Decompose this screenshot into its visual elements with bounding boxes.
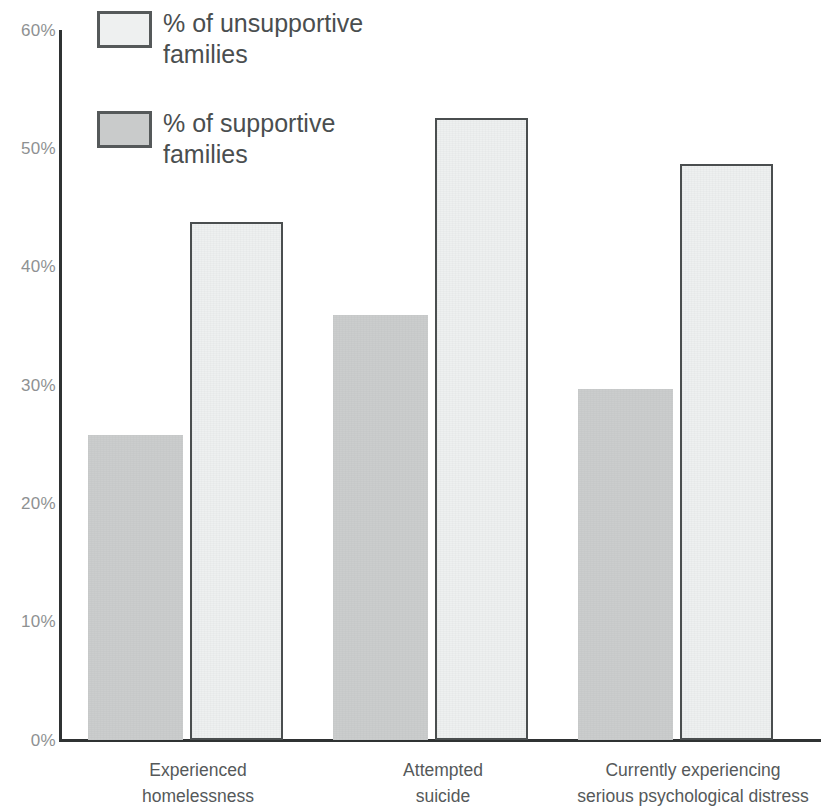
y-tick-label: 40% <box>4 258 56 275</box>
bar-unsupportive-0 <box>190 222 283 740</box>
y-tick-label: 60% <box>4 22 56 39</box>
grouped-bar-chart: 60% 50% 40% 30% 20% 10% 0% Experienced h… <box>0 0 827 811</box>
x-category-label-2: Currently experiencing serious psycholog… <box>558 757 827 809</box>
y-tick-label: 50% <box>4 140 56 157</box>
bar-supportive-1 <box>333 315 428 740</box>
y-tick-label: 10% <box>4 613 56 630</box>
x-category-label-0: Experienced homelessness <box>83 757 313 809</box>
bar-supportive-2 <box>578 389 673 740</box>
x-axis-category-labels: Experienced homelessness Attempted suici… <box>61 757 827 811</box>
legend-label-supportive: % of supportive families <box>163 108 335 170</box>
legend-label-unsupportive: % of unsupportive families <box>163 8 363 70</box>
chart-legend: % of unsupportive families % of supporti… <box>97 8 363 208</box>
legend-swatch-icon-unsupportive <box>97 11 152 48</box>
y-tick-label: 0% <box>4 732 56 749</box>
legend-item-supportive: % of supportive families <box>97 108 363 170</box>
bar-unsupportive-1 <box>435 118 528 740</box>
legend-item-unsupportive: % of unsupportive families <box>97 8 363 70</box>
y-axis-tick-labels: 60% 50% 40% 30% 20% 10% 0% <box>0 0 56 811</box>
bar-supportive-0 <box>88 435 183 740</box>
y-tick-label: 20% <box>4 495 56 512</box>
x-category-label-1: Attempted suicide <box>328 757 558 809</box>
bar-unsupportive-2 <box>680 164 773 740</box>
legend-swatch-icon-supportive <box>97 111 152 148</box>
y-tick-label: 30% <box>4 377 56 394</box>
